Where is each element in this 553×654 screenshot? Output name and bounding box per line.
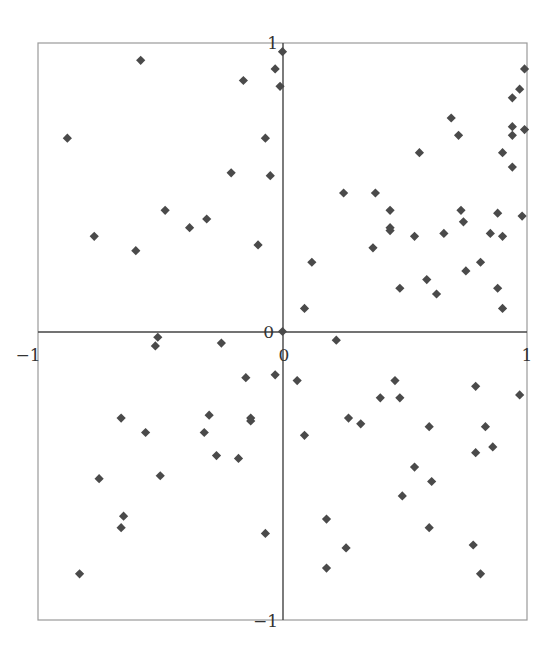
data-point-diamond (253, 240, 262, 249)
data-point-diamond (202, 214, 211, 223)
data-point-diamond (471, 382, 480, 391)
data-point-diamond (200, 428, 209, 437)
data-point-diamond (300, 304, 309, 313)
data-point-diamond (476, 569, 485, 578)
data-point-diamond (95, 474, 104, 483)
data-point-diamond (508, 122, 517, 131)
data-point-diamond (227, 168, 236, 177)
y-tick-label-min: −1 (253, 611, 278, 631)
data-point-diamond (498, 304, 507, 313)
data-point-diamond (471, 448, 480, 457)
data-point-diamond (427, 477, 436, 486)
x-tick-label-zero: 0 (279, 345, 290, 365)
data-point-diamond (156, 471, 165, 480)
data-point-diamond (508, 93, 517, 102)
x-tick-label-min: −1 (15, 345, 40, 365)
data-point-diamond (241, 373, 250, 382)
data-point-diamond (515, 85, 524, 94)
data-point-diamond (271, 64, 280, 73)
data-point-diamond (385, 206, 394, 215)
data-point-diamond (515, 390, 524, 399)
data-point-diamond (461, 266, 470, 275)
data-point-diamond (518, 212, 527, 221)
data-point-diamond (368, 243, 377, 252)
data-point-diamond (339, 188, 348, 197)
data-point-diamond (293, 376, 302, 385)
data-point-diamond (161, 206, 170, 215)
data-points (63, 47, 529, 578)
data-point-diamond (520, 64, 529, 73)
data-point-diamond (488, 442, 497, 451)
data-point-diamond (261, 134, 270, 143)
y-tick-label-zero: 0 (263, 322, 274, 342)
data-point-diamond (119, 512, 128, 521)
data-point-diamond (447, 113, 456, 122)
data-point-diamond (307, 258, 316, 267)
data-point-diamond (498, 232, 507, 241)
data-point-diamond (432, 289, 441, 298)
y-tick-label-max: 1 (267, 33, 278, 53)
data-point-diamond (261, 529, 270, 538)
data-point-diamond (376, 393, 385, 402)
data-point-diamond (90, 232, 99, 241)
data-point-diamond (498, 148, 507, 157)
data-point-diamond (234, 454, 243, 463)
data-point-diamond (205, 411, 214, 420)
data-point-diamond (136, 56, 145, 65)
x-tick-labels: −1 0 1 (15, 345, 532, 365)
data-point-diamond (344, 413, 353, 422)
data-point-diamond (425, 523, 434, 532)
data-point-diamond (493, 209, 502, 218)
data-point-diamond (493, 284, 502, 293)
data-point-diamond (239, 76, 248, 85)
data-point-diamond (454, 131, 463, 140)
data-point-diamond (508, 162, 517, 171)
data-point-diamond (131, 246, 140, 255)
data-point-diamond (390, 376, 399, 385)
data-point-diamond (395, 393, 404, 402)
data-point-diamond (217, 338, 226, 347)
data-point-diamond (322, 514, 331, 523)
data-point-diamond (271, 370, 280, 379)
data-point-diamond (410, 232, 419, 241)
scatter-chart: −1 0 1 1 0 −1 (0, 0, 553, 654)
x-tick-label-max: 1 (522, 345, 533, 365)
data-point-diamond (151, 341, 160, 350)
data-point-diamond (322, 563, 331, 572)
data-point-diamond (469, 540, 478, 549)
data-point-diamond (456, 206, 465, 215)
data-point-diamond (341, 543, 350, 552)
data-point-diamond (371, 188, 380, 197)
data-point-diamond (300, 431, 309, 440)
data-point-diamond (439, 229, 448, 238)
data-point-diamond (476, 258, 485, 267)
data-point-diamond (266, 171, 275, 180)
data-point-diamond (63, 134, 72, 143)
data-point-diamond (481, 422, 490, 431)
data-point-diamond (141, 428, 150, 437)
data-point-diamond (410, 462, 419, 471)
data-point-diamond (278, 47, 287, 56)
data-point-diamond (212, 451, 221, 460)
data-point-diamond (398, 491, 407, 500)
data-point-diamond (153, 333, 162, 342)
data-point-diamond (395, 284, 404, 293)
data-point-diamond (332, 336, 341, 345)
data-point-diamond (459, 217, 468, 226)
data-point-diamond (75, 569, 84, 578)
data-point-diamond (486, 229, 495, 238)
data-point-diamond (356, 419, 365, 428)
data-point-diamond (508, 131, 517, 140)
data-point-diamond (185, 223, 194, 232)
data-point-diamond (278, 327, 287, 336)
data-point-diamond (117, 523, 126, 532)
data-point-diamond (422, 275, 431, 284)
data-point-diamond (117, 413, 126, 422)
data-point-diamond (425, 422, 434, 431)
data-point-diamond (520, 125, 529, 134)
data-point-diamond (415, 148, 424, 157)
